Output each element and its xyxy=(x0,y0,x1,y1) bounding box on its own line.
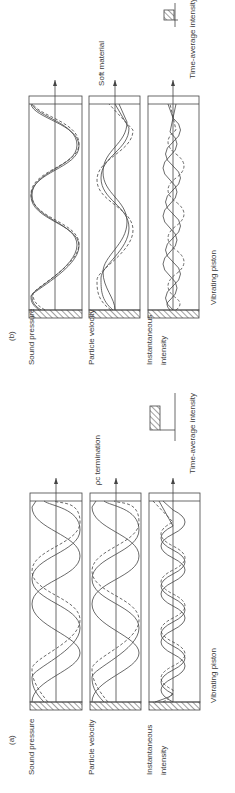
panel-b-termination-label: Soft material xyxy=(97,41,106,86)
panel-b-strip-particle-velocity xyxy=(89,80,140,318)
panel-b-strip-sound-pressure xyxy=(29,80,82,318)
panel-a-row-intensity-label-1: Instantaneous xyxy=(145,725,154,775)
panel-a-row-intensity-label-2: intensity xyxy=(159,746,168,775)
panel-a-row-particle-velocity-label: Particle velocity xyxy=(87,719,96,775)
panel-b-legend-label: Time-average intensity xyxy=(188,0,197,79)
panel-a-legend-label: Time-average intensity xyxy=(188,393,197,474)
panel-a-strip-sound-pressure xyxy=(30,478,82,710)
panel-b-time-average-bar-icon xyxy=(164,3,178,27)
panel-b: (b) Sound pressure Particle velocity Ins… xyxy=(7,0,218,365)
panel-b-row-intensity-label-2: intensity xyxy=(159,336,168,365)
panel-a-label: (a) xyxy=(7,735,16,745)
panel-b-source-label: Vibrating piston xyxy=(209,250,218,305)
panel-b-row-intensity-label-1: Instantaneous xyxy=(145,315,154,365)
panel-b-label: (b) xyxy=(7,331,16,341)
panel-a-row-sound-pressure-label: Sound pressure xyxy=(27,718,36,775)
panel-a-source-label: Vibrating piston xyxy=(209,648,218,703)
panel-a-strip-particle-velocity xyxy=(90,478,141,710)
panel-a-time-average-bar-icon xyxy=(150,393,175,441)
panel-a-strip-instantaneous-intensity xyxy=(149,478,200,710)
panel-a-termination-label: ρc termination xyxy=(93,435,102,485)
panel-a: (a) Sound pressure Particle velocity Ins… xyxy=(7,393,218,775)
panel-b-strip-instantaneous-intensity xyxy=(148,80,199,318)
standing-wave-figure: (a) Sound pressure Particle velocity Ins… xyxy=(0,0,235,793)
